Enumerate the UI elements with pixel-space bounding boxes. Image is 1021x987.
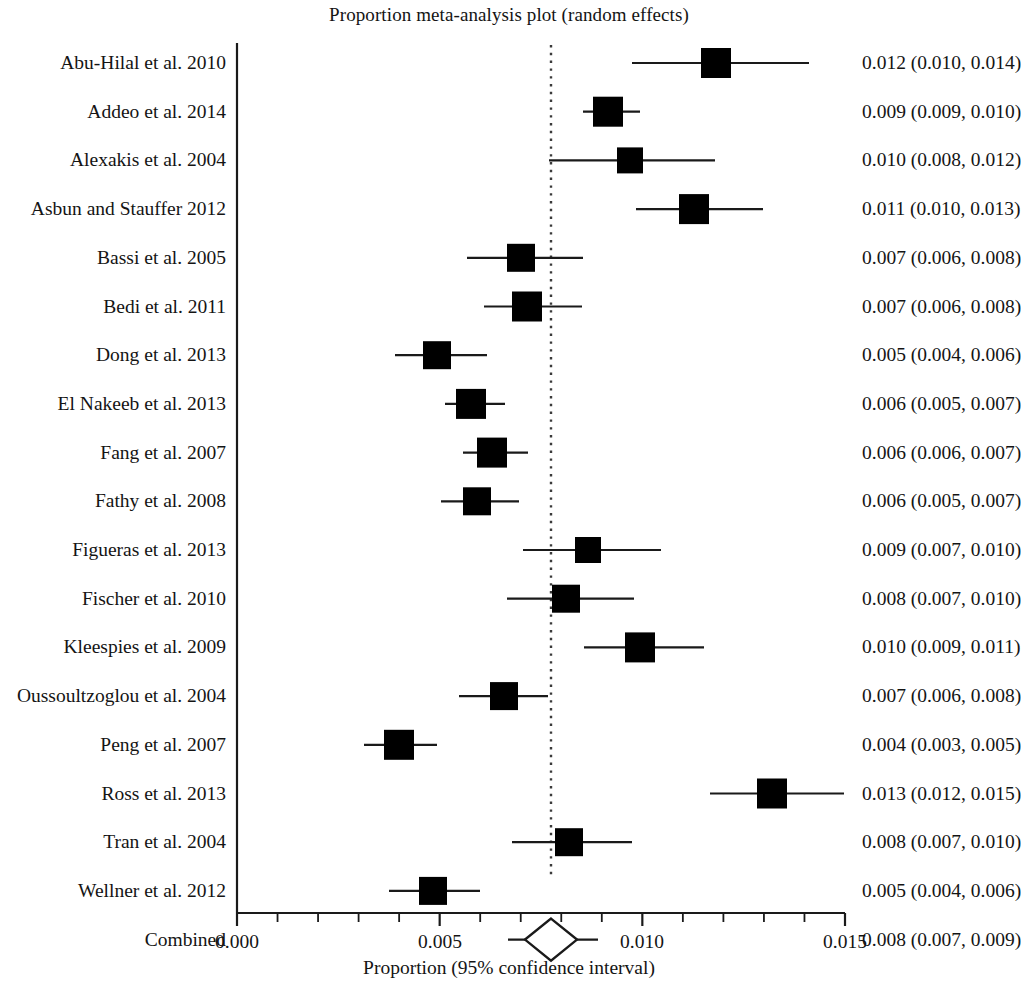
study-label: Dong et al. 2013 [96,345,226,365]
study-label: Abu-Hilal et al. 2010 [60,53,226,73]
forest-row [463,438,528,468]
forest-row [636,194,763,224]
effect-estimate-label: 0.009 (0.007, 0.010) [862,540,1021,560]
study-label: Asbun and Stauffer 2012 [31,199,226,219]
forest-row [512,828,632,856]
study-square-marker [625,632,655,662]
forest-row [467,244,583,272]
effect-estimate-label: 0.008 (0.007, 0.010) [862,589,1021,609]
study-square-marker [555,828,583,856]
forest-row [632,48,809,78]
study-label: Ross et al. 2013 [101,784,226,804]
study-square-marker [456,389,486,419]
x-axis-tick-label: 0.005 [380,932,500,952]
study-label: Figueras et al. 2013 [72,540,226,560]
study-square-marker [490,682,518,710]
x-axis-tick-label: 0.010 [582,932,702,952]
effect-estimate-label: 0.011 (0.010, 0.013) [862,199,1021,219]
x-axis-title: Proportion (95% confidence interval) [0,957,1018,979]
effect-estimate-label: 0.006 (0.005, 0.007) [862,491,1021,511]
study-square-marker [419,877,447,905]
forest-row [389,877,480,905]
study-label: Bassi et al. 2005 [97,248,226,268]
study-label: El Nakeeb et al. 2013 [58,394,226,414]
study-square-marker [757,779,787,809]
effect-estimate-label: 0.004 (0.003, 0.005) [862,735,1021,755]
effect-estimate-label: 0.007 (0.006, 0.008) [862,248,1021,268]
study-square-marker [552,585,580,613]
forest-row [507,585,634,613]
study-label-column: Abu-Hilal et al. 2010Addeo et al. 2014Al… [0,0,226,987]
study-label: Tran et al. 2004 [103,832,226,852]
effect-estimate-label: 0.013 (0.012, 0.015) [862,784,1021,804]
summary-diamond-marker [525,919,577,961]
study-label: Bedi et al. 2011 [103,297,226,317]
forest-row [484,292,582,322]
study-label: Fathy et al. 2008 [95,491,226,511]
effect-estimate-label: 0.010 (0.009, 0.011) [862,637,1021,657]
study-label: Kleespies et al. 2009 [64,637,226,657]
forest-row [523,537,661,563]
study-square-marker [463,487,491,515]
effect-estimate-label: 0.012 (0.010, 0.014) [862,53,1021,73]
study-label: Fischer et al. 2010 [82,589,226,609]
x-axis-tick-label: 0.015 [785,932,905,952]
x-axis-tick-label: 0.000 [177,932,297,952]
effect-estimate-label: 0.008 (0.007, 0.010) [862,832,1021,852]
effect-estimate-label: 0.007 (0.006, 0.008) [862,297,1021,317]
effect-estimate-label: 0.010 (0.008, 0.012) [862,150,1021,170]
study-square-marker [617,147,643,173]
study-label: Fang et al. 2007 [100,443,226,463]
study-label: Wellner et al. 2012 [78,881,226,901]
forest-row [441,487,519,515]
study-square-marker [575,537,601,563]
study-square-marker [477,438,507,468]
effect-estimate-label: 0.006 (0.006, 0.007) [862,443,1021,463]
forest-row [459,682,548,710]
forest-row [549,147,715,173]
study-square-marker [507,244,535,272]
forest-row [583,97,640,127]
forest-row [710,779,844,809]
study-square-marker [512,292,542,322]
forest-row [364,730,437,760]
effect-estimate-label: 0.007 (0.006, 0.008) [862,686,1021,706]
forest-row [395,341,487,369]
study-label: Peng et al. 2007 [100,735,226,755]
forest-row [445,389,505,419]
effect-estimate-label: 0.005 (0.004, 0.006) [862,881,1021,901]
effect-estimate-label: 0.005 (0.004, 0.006) [862,345,1021,365]
study-square-marker [679,194,709,224]
study-label: Addeo et al. 2014 [87,102,226,122]
effect-estimate-label: 0.006 (0.005, 0.007) [862,394,1021,414]
effect-estimate-column: 0.012 (0.010, 0.014)0.009 (0.009, 0.010)… [862,0,1018,987]
effect-estimate-label: 0.009 (0.009, 0.010) [862,102,1021,122]
study-label: Alexakis et al. 2004 [70,150,226,170]
study-label: Oussoultzoglou et al. 2004 [17,686,226,706]
study-square-marker [384,730,414,760]
plot-data-rows [364,48,844,961]
study-square-marker [593,97,623,127]
study-square-marker [423,341,451,369]
study-square-marker [701,48,731,78]
forest-row [584,632,704,662]
